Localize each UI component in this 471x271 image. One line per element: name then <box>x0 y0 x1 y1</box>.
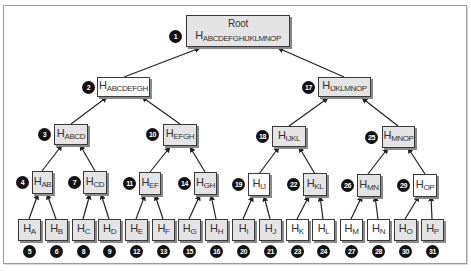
hash-node-mn: HMN <box>357 174 381 197</box>
step-badge: 6 <box>50 245 63 258</box>
root-title: Root <box>228 18 248 29</box>
leaf-node-o: HO <box>394 219 417 241</box>
hash-node-ef: HEF <box>139 172 161 195</box>
step-badge: 8 <box>77 245 90 258</box>
step-badge: 18 <box>256 130 269 143</box>
step-badge: 2 <box>82 81 95 94</box>
leaf-node-e: HE <box>125 219 148 241</box>
leaf-node-b: HB <box>45 219 68 241</box>
step-badge: 10 <box>146 128 159 141</box>
step-badge: 20 <box>237 245 250 258</box>
leaf-node-l: HL <box>312 219 335 241</box>
root-node: Root HABCDEFGHIJKLMNOP <box>186 15 290 47</box>
hash-node-op: HOP <box>413 174 437 197</box>
hash-node-gh: HGH <box>194 172 217 195</box>
hash-node-cd: HCD <box>83 171 107 194</box>
step-badge: 19 <box>232 178 245 191</box>
step-badge: 11 <box>123 177 136 190</box>
hash-node-mnop: HMNOP <box>382 126 415 148</box>
hash-node-ijklmnop: HIJKLMNOP <box>318 77 371 97</box>
step-badge: 28 <box>372 245 385 258</box>
step-badge: 21 <box>264 245 277 258</box>
step-badge: 9 <box>103 245 116 258</box>
step-badge: 25 <box>365 131 378 144</box>
step-badge: 16 <box>210 245 223 258</box>
leaf-node-h: HH <box>205 219 228 241</box>
hash-node-efgh: HEFGH <box>163 124 197 146</box>
step-badge: 24 <box>317 245 330 258</box>
step-badge: 15 <box>183 245 196 258</box>
step-badge: 26 <box>341 179 354 192</box>
step-badge: 27 <box>345 245 358 258</box>
hash-node-ij: HIJ <box>248 173 270 196</box>
step-badge: 1 <box>169 30 182 43</box>
step-badge: 30 <box>399 245 412 258</box>
hash-node-ab: HAB <box>32 171 53 194</box>
hash-node-ijkl: HIJKL <box>272 126 306 147</box>
step-badge: 5 <box>23 245 36 258</box>
leaf-node-f: HF <box>152 219 175 241</box>
step-badge: 3 <box>38 128 51 141</box>
leaf-node-p: HP <box>421 219 444 241</box>
leaf-node-j: HJ <box>259 219 282 241</box>
step-badge: 17 <box>302 81 315 94</box>
leaf-node-k: HK <box>286 219 309 241</box>
step-badge: 13 <box>157 245 170 258</box>
step-badge: 29 <box>397 179 410 192</box>
hash-node-abcd: HABCD <box>54 124 88 145</box>
step-badge: 22 <box>287 178 300 191</box>
leaf-node-i: HI <box>232 219 255 241</box>
hash-node-abcdefgh: HABCDEFGH <box>97 77 150 97</box>
leaf-node-n: HN <box>367 219 390 241</box>
leaf-node-g: HG <box>178 219 201 241</box>
step-badge: 7 <box>68 176 81 189</box>
hash-node-kl: HKL <box>303 173 327 196</box>
step-badge: 23 <box>291 245 304 258</box>
step-badge: 4 <box>16 176 29 189</box>
leaf-node-c: HC <box>72 219 95 241</box>
step-badge: 12 <box>130 245 143 258</box>
leaf-node-m: HM <box>340 219 363 241</box>
leaf-node-a: HA <box>18 219 41 241</box>
leaf-node-d: HD <box>98 219 121 241</box>
step-badge: 14 <box>178 177 191 190</box>
step-badge: 31 <box>426 245 439 258</box>
